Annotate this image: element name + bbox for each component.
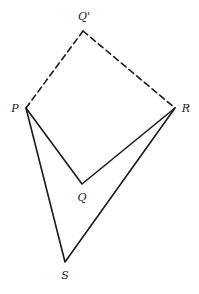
geometry-diagram: Q' P R Q S xyxy=(0,0,199,294)
edge-p-qprime xyxy=(26,31,83,108)
label-q-prime: Q' xyxy=(78,10,90,23)
path-p-q-r xyxy=(26,108,175,184)
label-r: R xyxy=(181,102,190,115)
label-q: Q xyxy=(77,191,86,204)
edge-qprime-r xyxy=(83,31,175,108)
label-p: P xyxy=(10,102,19,115)
label-s: S xyxy=(61,269,69,282)
path-p-s-r xyxy=(26,108,175,262)
